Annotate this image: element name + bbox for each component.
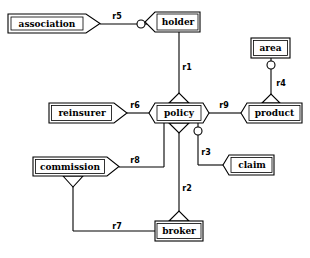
entity-broker-top-arrow — [169, 211, 189, 221]
relationship-label-r3: r3 — [201, 148, 211, 157]
relationship-label-r8: r8 — [130, 156, 140, 165]
entity-broker[interactable]: broker — [155, 211, 203, 241]
relationship-label-r9: r9 — [219, 101, 229, 110]
entity-claim-label: claim — [238, 160, 266, 170]
entity-association-label: association — [19, 19, 76, 29]
relationship-label-r4: r4 — [276, 79, 286, 88]
entity-commission[interactable]: commission — [33, 157, 119, 187]
relationship-label-r7: r7 — [112, 222, 122, 231]
entity-product-label: product — [255, 108, 295, 118]
er-diagram-canvas: association holder area reinsurer — [0, 0, 310, 258]
entity-product[interactable]: product — [241, 94, 302, 123]
entity-holder-label: holder — [162, 17, 195, 27]
entity-commission-label: commission — [40, 162, 101, 172]
entity-commission-bottom-arrow — [63, 176, 83, 187]
relationship-label-r6: r6 — [130, 101, 140, 110]
entity-reinsurer[interactable]: reinsurer — [49, 103, 127, 123]
entity-policy-label: policy — [164, 108, 195, 118]
entity-broker-label: broker — [162, 226, 196, 236]
entity-holder[interactable]: holder — [145, 12, 200, 32]
relationship-label-r2: r2 — [182, 184, 192, 193]
er-diagram-svg: association holder area reinsurer — [0, 0, 310, 258]
entity-policy-top-arrow — [169, 93, 189, 103]
entity-association[interactable]: association — [8, 14, 100, 33]
entity-policy-bottom-arrow — [169, 123, 189, 133]
connector-lines — [73, 24, 271, 231]
entity-product-top-arrow — [262, 94, 280, 103]
optionality-circle-r5 — [137, 20, 145, 28]
entity-claim[interactable]: claim — [223, 155, 274, 175]
entity-area-label: area — [259, 43, 281, 53]
relationship-label-r5: r5 — [112, 12, 122, 21]
optionality-circle-r4 — [267, 61, 275, 69]
entity-area[interactable]: area — [251, 38, 290, 58]
optionality-circle-r3 — [194, 127, 202, 135]
relationship-label-r1: r1 — [182, 63, 192, 72]
entity-reinsurer-label: reinsurer — [58, 108, 106, 118]
